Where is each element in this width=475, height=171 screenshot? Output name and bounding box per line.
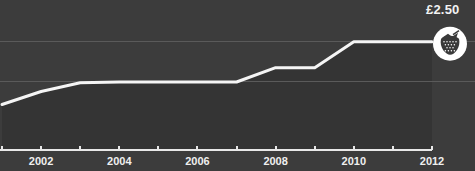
strawberry-seed [443, 41, 445, 43]
strawberry-seed [451, 50, 453, 52]
strawberry-seed [448, 50, 450, 52]
x-tick-label-2004: 2004 [107, 155, 131, 167]
x-tick-label-2006: 2006 [185, 155, 209, 167]
strawberry-icon [433, 27, 467, 61]
strawberry-seed [445, 44, 447, 46]
strawberry-seed [454, 44, 456, 46]
strawberry-seed [452, 41, 454, 43]
strawberry-seed [451, 44, 453, 46]
strawberry-seed [449, 41, 451, 43]
x-tick-label-2010: 2010 [342, 155, 366, 167]
x-tick-label-2012: 2012 [420, 155, 444, 167]
strawberry-seed [448, 44, 450, 46]
endpoint-price-label: £2.50 [426, 2, 460, 17]
strawberry-seed [446, 47, 448, 49]
strawberry-seed [452, 47, 454, 49]
strawberry-seed [454, 50, 456, 52]
strawberry-seed [455, 41, 457, 43]
area-fill [2, 42, 432, 150]
strawberry-price-chart: £2.50 200220042006200820102012 [0, 0, 475, 171]
strawberry-seed [449, 47, 451, 49]
strawberry-seed [446, 41, 448, 43]
x-tick-label-2002: 2002 [29, 155, 53, 167]
chart-canvas [0, 0, 475, 171]
strawberry-seed [445, 50, 447, 52]
x-tick-label-2008: 2008 [263, 155, 287, 167]
